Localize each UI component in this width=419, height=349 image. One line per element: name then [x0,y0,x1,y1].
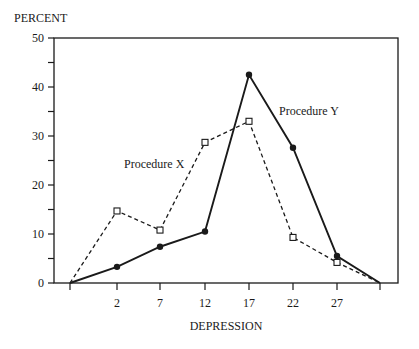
plot-frame [54,38,398,283]
y-tick-label: 50 [32,31,44,45]
y-axis: 01020304050 [32,31,54,290]
dot-marker [157,244,163,250]
square-marker [290,234,296,240]
x-tick-label: 22 [287,296,299,310]
line-chart: 01020304050 2712172227 PERCENT DEPRESSIO… [0,0,419,349]
square-marker [334,259,340,265]
dot-marker [334,253,340,259]
series-line [70,121,380,283]
y-tick-label: 40 [32,80,44,94]
x-axis-title: DEPRESSION [190,319,263,333]
x-axis: 2712172227 [70,283,380,310]
x-tick-label: 7 [157,296,163,310]
dot-marker [114,264,120,270]
x-tick-label: 12 [199,296,211,310]
square-marker [114,208,120,214]
y-axis-title: PERCENT [14,11,68,25]
annotation-procedure-x: Procedure X [124,157,185,171]
square-marker [202,139,208,145]
dot-marker [290,145,296,151]
y-tick-label: 30 [32,129,44,143]
y-tick-label: 0 [38,276,44,290]
dot-marker [246,72,252,78]
square-marker [157,227,163,233]
y-tick-label: 20 [32,178,44,192]
x-tick-label: 17 [243,296,255,310]
y-tick-label: 10 [32,227,44,241]
dot-marker [202,228,208,234]
square-marker [246,118,252,124]
annotation-procedure-y: Procedure Y [279,104,339,118]
x-tick-label: 27 [331,296,343,310]
series-procedure-x [70,118,380,283]
x-tick-label: 2 [114,296,120,310]
